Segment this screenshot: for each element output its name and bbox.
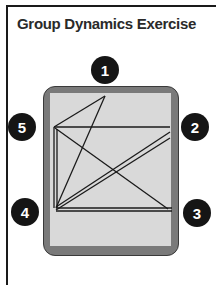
position-badge-2: 2 (181, 113, 209, 141)
badge-label: 5 (18, 119, 26, 136)
badge-label: 4 (21, 204, 29, 221)
position-badge-5: 5 (8, 113, 36, 141)
line-4-2b (56, 138, 170, 210)
badge-label: 1 (101, 62, 109, 79)
position-badge-4: 4 (11, 198, 39, 226)
position-badge-3: 3 (183, 199, 211, 227)
position-badge-1: 1 (91, 56, 119, 84)
badge-label: 2 (191, 119, 199, 136)
badge-label: 3 (193, 205, 201, 222)
line-5-1 (54, 96, 105, 127)
